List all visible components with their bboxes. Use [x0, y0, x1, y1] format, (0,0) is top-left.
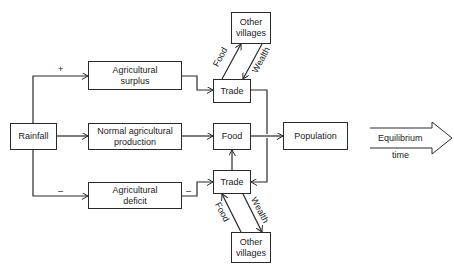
normal-label-2: production — [114, 137, 156, 148]
surplus-label-2: surplus — [120, 76, 149, 87]
villages-top-label-1: Other — [240, 17, 263, 28]
minus-sign-left-label: – — [58, 186, 63, 196]
other-villages-bottom-node: Other villages — [231, 232, 271, 263]
trade-top-label: Trade — [220, 86, 243, 97]
agricultural-deficit-node: Agricultural deficit — [88, 182, 182, 209]
time-label: time — [392, 150, 409, 160]
villages-bottom-label-2: villages — [236, 248, 266, 259]
plus-sign-label: + — [58, 64, 63, 74]
deficit-label-2: deficit — [123, 196, 147, 207]
trade-bottom-label: Trade — [220, 177, 243, 188]
trade-top-node: Trade — [213, 79, 251, 103]
rainfall-label: Rainfall — [18, 131, 48, 142]
villages-bottom-label-1: Other — [240, 237, 263, 248]
villages-top-label-2: villages — [236, 28, 266, 39]
other-villages-top-node: Other villages — [231, 12, 271, 44]
agricultural-surplus-node: Agricultural surplus — [88, 61, 182, 90]
normal-label-1: Normal agricultural — [97, 126, 173, 137]
food-label: Food — [222, 131, 243, 142]
food-node: Food — [213, 123, 251, 150]
surplus-label-1: Agricultural — [112, 65, 157, 76]
rainfall-node: Rainfall — [10, 123, 57, 150]
equilibrium-label: Equilibrium — [378, 133, 423, 143]
normal-production-node: Normal agricultural production — [88, 123, 182, 150]
deficit-label-1: Agricultural — [112, 185, 157, 196]
minus-sign-right-label: – — [186, 186, 191, 196]
population-label: Population — [294, 131, 337, 142]
population-node: Population — [283, 122, 348, 150]
trade-bottom-node: Trade — [213, 170, 251, 194]
